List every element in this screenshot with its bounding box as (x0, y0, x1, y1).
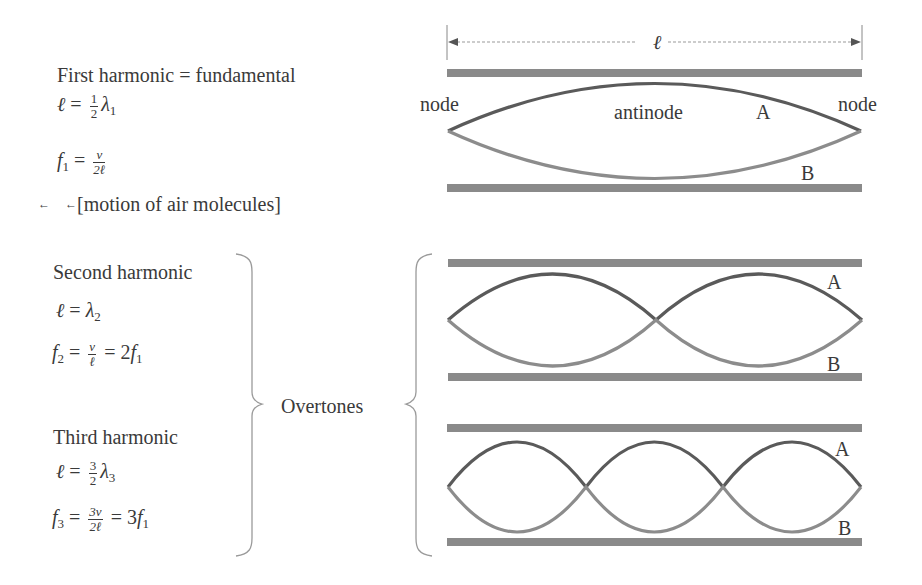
curve-a-label: A (827, 272, 841, 292)
tube-first-harmonic (447, 69, 862, 192)
tube-wall-bottom (447, 538, 862, 546)
arrow-left-icon (448, 38, 458, 46)
length-label: ℓ (649, 32, 665, 52)
curve-b-label: B (827, 354, 840, 374)
tube-third-harmonic (447, 424, 862, 546)
left-brace-icon (236, 254, 262, 556)
node-label-left: node (420, 94, 459, 114)
wave-curve-b (448, 131, 861, 179)
curve-b-label: B (801, 163, 814, 183)
wave-curve-a (448, 442, 861, 487)
tube-wall-top (448, 259, 862, 267)
wave-curve-b (448, 320, 862, 366)
tube-wall-bottom (447, 184, 862, 192)
standing-wave-diagram (0, 0, 922, 585)
tube-second-harmonic (448, 259, 862, 381)
wave-curve-b (448, 487, 861, 532)
curve-a-label: A (835, 439, 849, 459)
curve-a-label: A (756, 102, 770, 122)
node-label-right: node (838, 94, 877, 114)
tube-wall-bottom (448, 373, 862, 381)
antinode-label: antinode (614, 102, 683, 122)
tube-wall-top (447, 424, 862, 432)
tube-wall-top (447, 69, 862, 77)
right-brace-icon (406, 254, 432, 556)
curve-b-label: B (838, 518, 851, 538)
arrow-right-icon (851, 38, 861, 46)
wave-curve-a (448, 274, 862, 320)
